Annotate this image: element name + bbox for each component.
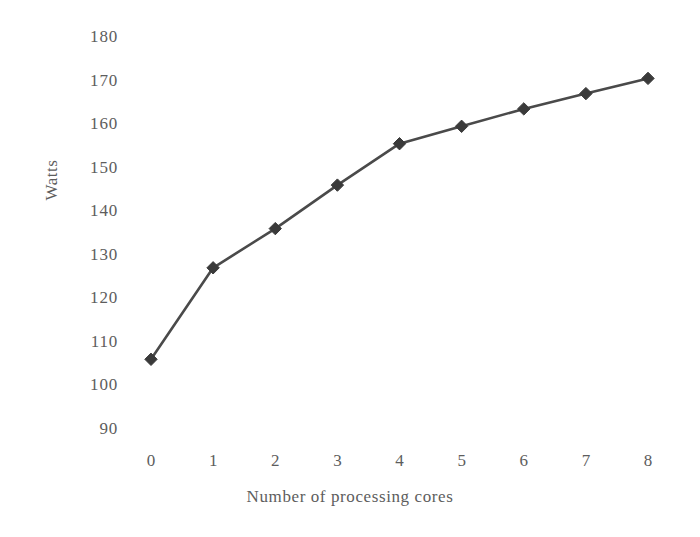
chart-canvas: Watts 90100110120130140150160170180 0 co… [0,0,700,537]
x-tick-label: 0 [136,452,166,469]
x-tick-label: 6 [509,452,539,469]
x-tick-label: 7 [571,452,601,469]
data-point-marker: 5 cores: 159.5 W [455,120,467,132]
x-axis-title: Number of processing cores [0,487,700,507]
data-point-marker: 7 cores: 167 W [580,87,592,99]
x-tick-label: 5 [447,452,477,469]
data-series-layer: 0 cores: 106 W1 cores: 127 W2 cores: 136… [145,72,654,365]
data-point-marker: 8 cores: 170.5 W [642,72,654,84]
x-tick-label: 8 [633,452,663,469]
x-tick-label: 2 [260,452,290,469]
x-tick-label: 1 [198,452,228,469]
series-line [151,78,648,359]
data-point-marker: 6 cores: 163.5 W [518,103,531,115]
x-tick-label: 4 [385,452,415,469]
x-tick-label: 3 [322,452,352,469]
